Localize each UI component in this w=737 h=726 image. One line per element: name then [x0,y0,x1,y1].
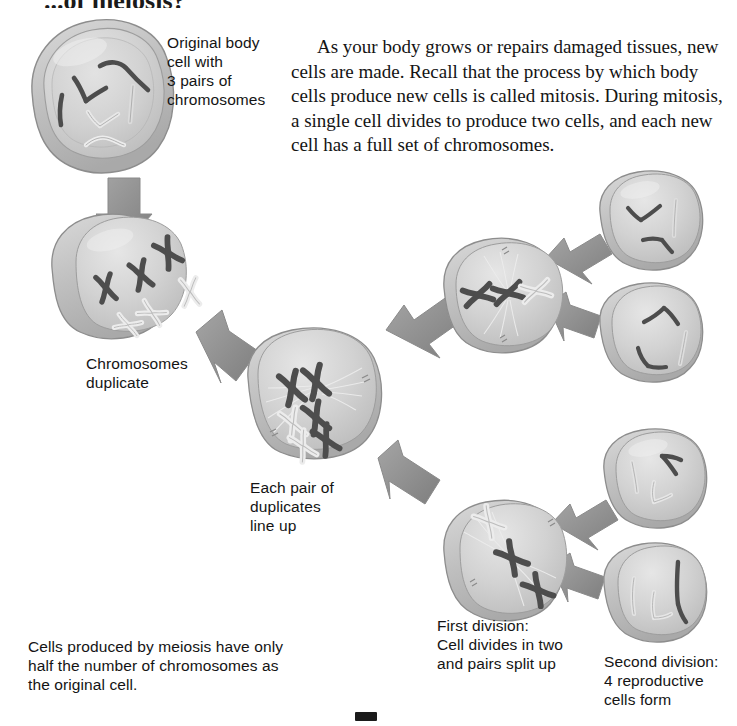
cell-reproductive-cell-1 [600,171,703,270]
cell-first-division-lower [444,500,567,621]
page-footer-mark [355,712,377,721]
cell-reproductive-cell-3 [604,429,707,528]
label-original-cell: Original body cell with 3 pairs of chrom… [167,33,297,109]
intro-paragraph: As your body grows or repairs damaged ti… [291,35,731,158]
cell-first-division-upper [444,238,563,353]
caption-meiosis-chromosome-count: Cells produced by meiosis have only half… [28,637,318,694]
label-second-division: Second division: 4 reproductive cells fo… [604,652,737,709]
diagram-page: ...of meiosis? [0,0,737,726]
label-chromosomes-duplicate: Chromosomes duplicate [86,354,256,392]
cell-aligned-cell [248,328,382,462]
cell-reproductive-cell-2 [600,283,703,382]
cell-original-body-cell [32,20,174,173]
cell-duplicated-cell [52,214,200,338]
label-pairs-line-up: Each pair of duplicates line up [250,478,400,535]
